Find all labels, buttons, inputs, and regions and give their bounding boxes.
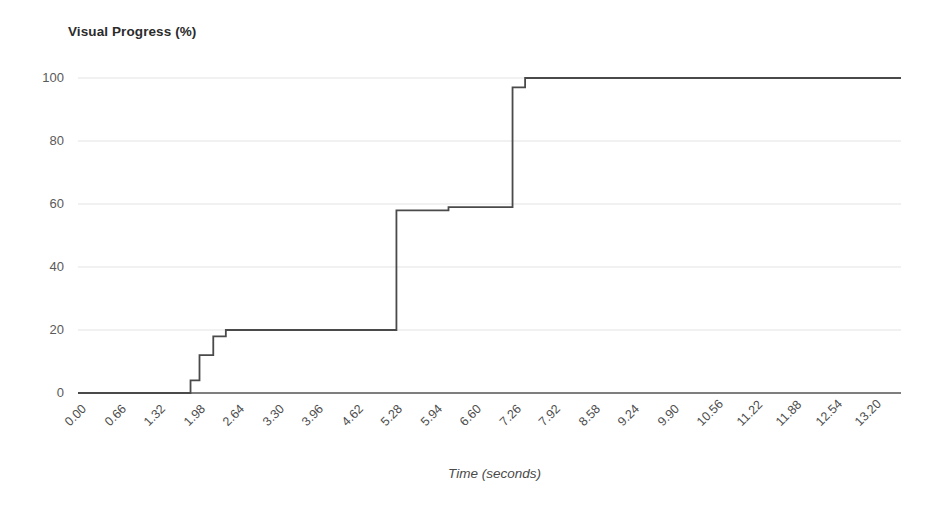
y-tick-label: 0 bbox=[18, 385, 64, 400]
y-gridlines bbox=[78, 78, 901, 330]
x-axis-title-text: Time (seconds) bbox=[388, 466, 541, 481]
y-tick-label: 80 bbox=[18, 133, 64, 148]
y-tick-label: 60 bbox=[18, 196, 64, 211]
visual-progress-chart: Visual Progress (%) 020406080100 0.000.6… bbox=[0, 0, 929, 516]
y-tick-label: 20 bbox=[18, 322, 64, 337]
progress-step-line bbox=[78, 78, 901, 393]
chart-plot-area bbox=[0, 0, 929, 516]
y-tick-label: 100 bbox=[18, 70, 64, 85]
y-tick-label: 40 bbox=[18, 259, 64, 274]
chart-x-axis-title: Time (seconds) bbox=[0, 466, 929, 481]
